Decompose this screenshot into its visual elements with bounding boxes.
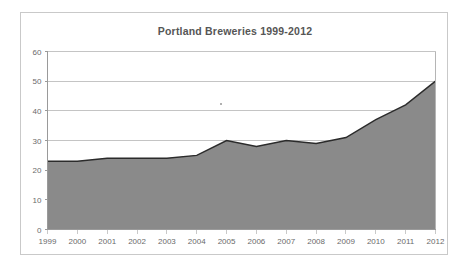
y-tick-label: 40 [33,107,42,116]
x-tick-label: 1999 [39,237,57,246]
x-tick-label: 2010 [367,237,385,246]
y-tick-label: 20 [33,166,42,175]
x-tick-label: 2001 [98,237,116,246]
x-tick-label: 2008 [307,237,325,246]
x-tick-label: 2002 [128,237,146,246]
x-tick-label: 2004 [188,237,206,246]
chart-figure: Portland Breweries 1999-2012 01020304050… [20,12,448,255]
x-tick-label: 2006 [248,237,266,246]
y-tick-label: 50 [33,77,42,86]
y-tick-label: 0 [37,226,42,235]
x-tick-label: 2012 [427,237,445,246]
x-tick-label: 2007 [277,237,295,246]
x-tick-label: 2011 [397,237,415,246]
area-chart-plot: 0102030405060 19992000200120022003200420… [21,13,449,256]
y-axis-tick-labels: 0102030405060 [33,48,42,235]
x-tick-label: 2000 [68,237,86,246]
x-tick-marks-group [48,230,436,234]
y-tick-label: 30 [33,137,42,146]
y-tick-label: 60 [33,48,42,57]
x-tick-label: 2005 [218,237,236,246]
x-tick-label: 2003 [158,237,176,246]
series-area-fill [48,81,436,229]
stray-speck [220,103,222,105]
y-tick-label: 10 [33,196,42,205]
x-tick-label: 2009 [337,237,355,246]
x-axis-tick-labels: 1999200020012002200320042005200620072008… [39,237,445,246]
